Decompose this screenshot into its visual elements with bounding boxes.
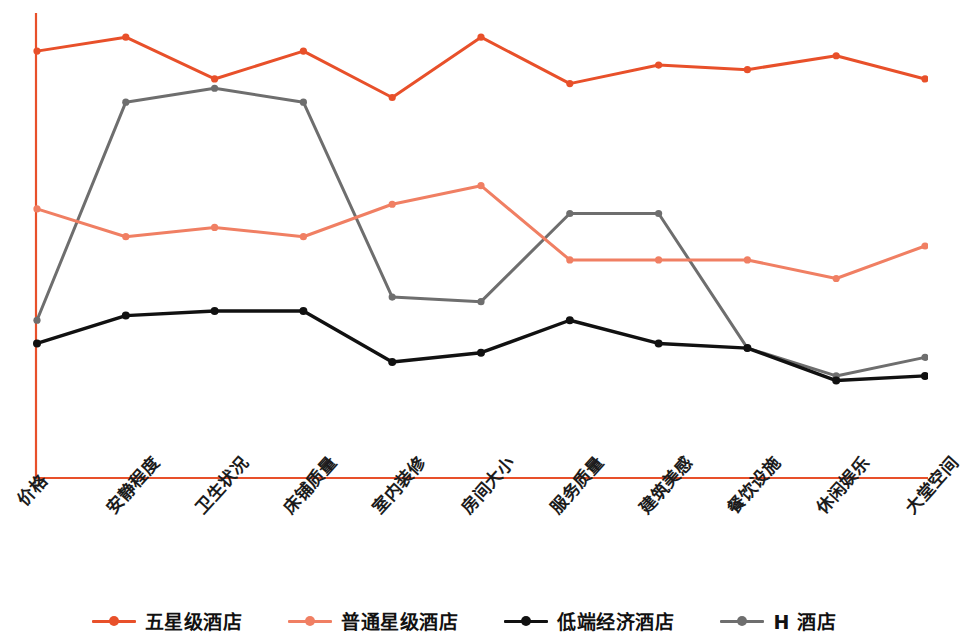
data-point [33, 48, 40, 55]
data-point [300, 99, 307, 106]
data-point [744, 256, 751, 263]
data-point [211, 75, 218, 82]
legend-marker-icon [504, 615, 548, 627]
data-point [655, 256, 662, 263]
legend-item[interactable]: 低端经济酒店 [504, 607, 674, 634]
data-point [33, 339, 41, 347]
legend-item[interactable]: H 酒店 [720, 607, 836, 634]
data-point [743, 344, 751, 352]
legend-item[interactable]: 普通星级酒店 [288, 607, 458, 634]
data-point [833, 52, 840, 59]
legend-label: 普通星级酒店 [341, 607, 458, 634]
series-1 [33, 34, 928, 102]
legend-marker-icon [92, 615, 136, 627]
data-point [389, 201, 396, 208]
data-point [655, 61, 662, 68]
data-point [566, 210, 573, 217]
data-point [832, 377, 840, 385]
series-line [37, 186, 925, 279]
data-point [122, 312, 130, 320]
data-point [833, 275, 840, 282]
series-3 [33, 307, 928, 385]
data-point [122, 233, 129, 240]
data-point [477, 182, 484, 189]
data-point [33, 205, 40, 212]
data-point [211, 224, 218, 231]
legend-label: 低端经济酒店 [557, 607, 674, 634]
data-point [477, 298, 484, 305]
data-point [299, 307, 307, 315]
data-point [388, 358, 396, 366]
plot-area [0, 0, 928, 500]
data-point [566, 316, 574, 324]
data-point [921, 75, 928, 82]
data-point [122, 34, 129, 41]
legend-marker-icon [720, 615, 764, 627]
legend-marker-icon [288, 615, 332, 627]
data-point [211, 307, 219, 315]
data-point [655, 339, 663, 347]
data-point [211, 85, 218, 92]
series-2 [33, 182, 928, 282]
data-point [566, 256, 573, 263]
data-point [477, 349, 485, 357]
data-point [744, 66, 751, 73]
data-point [300, 48, 307, 55]
data-point [389, 94, 396, 101]
data-point [389, 293, 396, 300]
axes [36, 13, 928, 478]
series-line [37, 37, 925, 97]
data-point [655, 210, 662, 217]
chart-legend: 五星级酒店普通星级酒店低端经济酒店H 酒店 [0, 601, 928, 640]
data-point [477, 34, 484, 41]
data-point [300, 233, 307, 240]
x-axis-labels: 价格安静程度卫生状况床铺质量室内装修房间大小服务质量建筑美感餐饮设施休闲娱乐大堂… [0, 478, 928, 598]
legend-label: H 酒店 [773, 607, 836, 634]
data-point [122, 99, 129, 106]
legend-item[interactable]: 五星级酒店 [92, 607, 243, 634]
data-point [921, 372, 928, 380]
series-layer [33, 34, 928, 385]
series-line [37, 311, 925, 381]
data-point [566, 80, 573, 87]
legend-label: 五星级酒店 [145, 607, 243, 634]
data-point [921, 354, 928, 361]
data-point [33, 317, 40, 324]
